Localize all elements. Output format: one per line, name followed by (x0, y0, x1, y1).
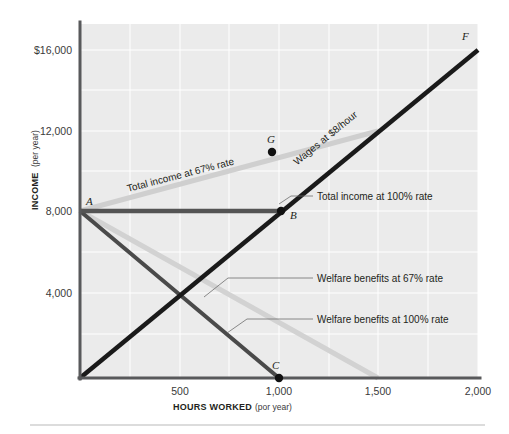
x-tick-1000: 1,000 (266, 385, 292, 397)
y-tick-16000: $16,000 (34, 44, 72, 56)
point-dot-C (275, 374, 283, 382)
y-tick-12000: 12,000 (40, 125, 72, 137)
x-tick-500: 500 (171, 385, 189, 397)
point-label-G: G (267, 133, 275, 145)
y-axis-title-group: INCOME (per year) (30, 130, 40, 210)
x-axis-title-sub: (por year) (255, 402, 292, 412)
y-tick-8000: 8,000 (46, 205, 72, 217)
label-welfare-benefits-100: Welfare benefits at 100% rate (317, 314, 449, 325)
figure-container: $16,000 12,000 8,000 4,000 500 1,000 1,5… (0, 0, 509, 434)
y-tick-4000: 4,000 (46, 287, 72, 299)
welfare-income-chart: $16,000 12,000 8,000 4,000 500 1,000 1,5… (0, 0, 509, 434)
x-tick-2000: 2,000 (465, 385, 491, 397)
point-label-A: A (85, 195, 93, 207)
label-total-income-100: Total income at 100% rate (317, 191, 433, 202)
y-axis-title-sub: (per year) (30, 130, 40, 167)
x-axis-title: HOURS WORKED (173, 402, 252, 412)
point-dot-G (268, 148, 276, 156)
y-axis-title: INCOME (30, 173, 40, 211)
point-label-F: F (461, 30, 469, 42)
point-dot-B (277, 207, 285, 215)
point-label-C: C (272, 359, 280, 371)
label-welfare-benefits-67: Welfare benefits at 67% rate (317, 273, 443, 284)
point-label-B: B (290, 209, 297, 221)
x-tick-1500: 1,500 (365, 385, 391, 397)
